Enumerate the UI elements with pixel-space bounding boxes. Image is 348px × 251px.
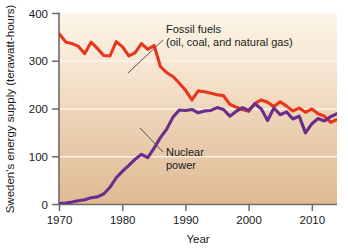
fossil-annotation-line2: (oil, coal, and natural gas) (166, 36, 293, 48)
energy-supply-line-chart: 400 300 200 100 0 1970 1980 1990 2000 20… (0, 0, 348, 251)
y-tick-label-0: 0 (42, 199, 48, 211)
fossil-annotation-line1: Fossil fuels (166, 23, 222, 35)
nuclear-annotation-line2: power (166, 159, 196, 171)
x-axis-title: Year (186, 233, 209, 245)
x-tick-label-2000: 2000 (236, 214, 262, 226)
nuclear-annotation-line1: Nuclear (166, 146, 204, 158)
y-tick-label-400: 400 (29, 8, 48, 20)
y-axis-ticks (52, 14, 59, 205)
chart-container: 400 300 200 100 0 1970 1980 1990 2000 20… (0, 0, 348, 251)
y-tick-label-300: 300 (29, 55, 48, 67)
x-tick-label-1970: 1970 (47, 214, 73, 226)
y-axis-title: Sweden's energy supply (terawatt-hours) (4, 5, 16, 214)
x-tick-label-1990: 1990 (173, 214, 199, 226)
y-tick-label-100: 100 (29, 151, 48, 163)
y-tick-label-200: 200 (29, 103, 48, 115)
x-tick-label-1980: 1980 (110, 214, 136, 226)
x-axis-ticks (60, 205, 313, 212)
x-tick-label-2010: 2010 (300, 214, 326, 226)
